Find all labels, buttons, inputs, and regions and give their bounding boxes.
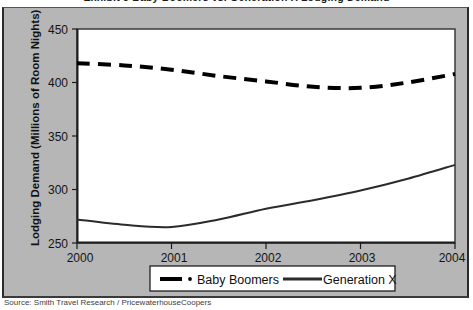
x-tick-label-2001: 2001 [161,251,188,265]
source-note-strip: Source: Smith Travel Research / Pricewat… [0,300,473,310]
y-tick-label-300: 300 [48,183,68,197]
legend-label-generation-x: Generation X [323,273,397,287]
legend-label-baby-boomers: Baby Boomers [197,273,279,287]
chart-figure: Exhibit 3 Baby Boomers vs. Generation X … [0,0,473,310]
legend-dot-baby-boomers [188,277,192,281]
chart-legend: Baby Boomers Generation X [150,266,397,291]
y-tick-label-350: 350 [48,130,68,144]
x-tick-label-2002: 2002 [255,251,282,265]
x-tick-label-2000: 2000 [67,251,94,265]
plot-background [77,29,455,243]
y-tick-label-250: 250 [48,237,68,251]
x-tick-label-2004: 2004 [439,251,466,265]
y-tick-label-450: 450 [48,23,68,37]
y-tick-label-400: 400 [48,76,68,90]
x-tick-marks [77,243,455,249]
x-tick-label-2003: 2003 [349,251,376,265]
plot-area: 450 400 350 300 250 2000 2001 2002 2003 … [0,0,473,310]
source-note: Source: Smith Travel Research / Pricewat… [4,300,211,307]
